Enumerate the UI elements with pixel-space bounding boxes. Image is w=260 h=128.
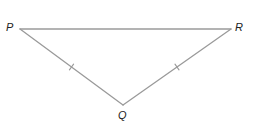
vertex-label-p: P xyxy=(6,22,13,33)
vertex-label-q: Q xyxy=(118,110,127,121)
tick-mark-pq xyxy=(69,64,73,70)
tick-mark-qr xyxy=(175,64,179,70)
triangle-diagram xyxy=(0,0,260,128)
vertex-label-r: R xyxy=(235,22,243,33)
